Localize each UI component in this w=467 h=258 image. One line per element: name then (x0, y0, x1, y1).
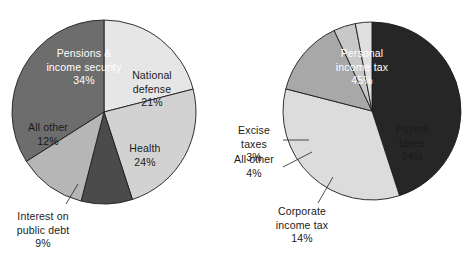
two-pie-chart-figure: National defense 21%Health 24%Interest o… (0, 0, 467, 258)
